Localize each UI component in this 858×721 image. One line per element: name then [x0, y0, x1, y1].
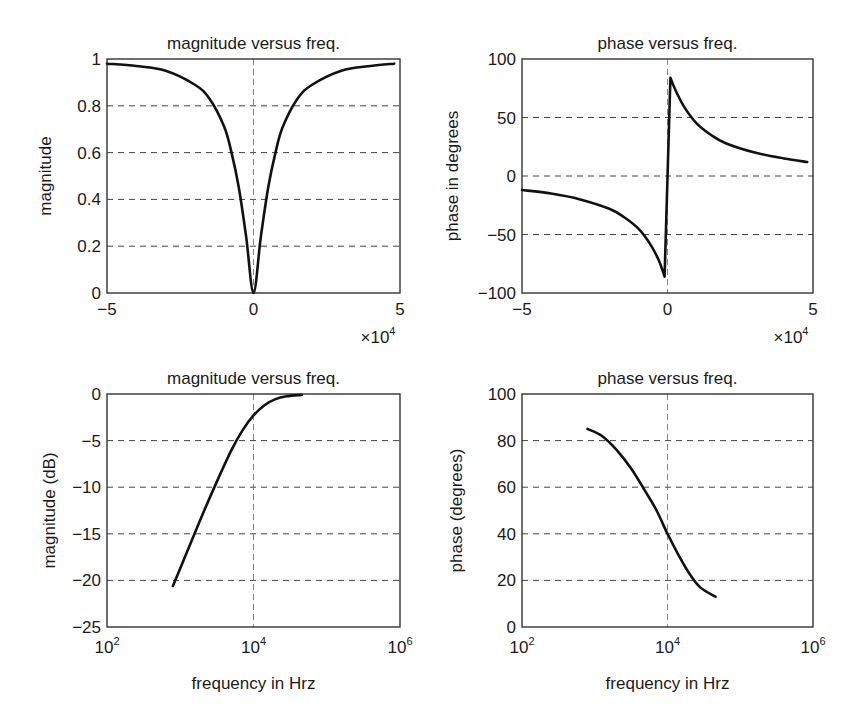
y-tick-label: −50 — [487, 226, 516, 245]
x-axis-label: frequency in Hrz — [192, 674, 316, 693]
y-tick-label: 40 — [497, 525, 516, 544]
y-tick-label: −5 — [82, 432, 101, 451]
y-tick-label: 100 — [488, 50, 516, 69]
series-line-phase_deg — [587, 429, 715, 597]
x-multiplier-label: ×104 — [774, 325, 809, 347]
y-axis-label: phase in degrees — [443, 111, 462, 241]
x-multiplier-label: ×104 — [361, 325, 396, 347]
y-tick-label: 0.2 — [77, 237, 101, 256]
x-tick-label: 104 — [655, 635, 680, 657]
subplot-title: magnitude versus freq. — [167, 369, 340, 388]
x-tick-label: −5 — [97, 300, 116, 319]
y-axis-label: magnitude (dB) — [40, 452, 59, 568]
subplot-title: phase versus freq. — [598, 369, 738, 388]
subplot-top-left: magnitude versus freq.00.20.40.60.81−505… — [36, 34, 405, 347]
y-axis-label: phase (degrees) — [447, 449, 466, 573]
y-tick-label: 1 — [92, 50, 101, 69]
y-tick-label: 0.6 — [77, 144, 101, 163]
x-tick-label: 102 — [94, 635, 119, 657]
y-tick-label: 50 — [497, 109, 516, 128]
y-tick-label: 60 — [497, 478, 516, 497]
y-tick-label: −100 — [478, 284, 516, 303]
x-axis-label: frequency in Hrz — [606, 674, 730, 693]
y-tick-label: 0.4 — [77, 190, 101, 209]
x-tick-label: 5 — [808, 300, 817, 319]
series-line-magnitude_dB — [173, 395, 302, 586]
subplot-bottom-left: magnitude versus freq.−25−20−15−10−50102… — [40, 369, 413, 693]
series-line-magnitude — [107, 64, 394, 293]
y-tick-label: −15 — [72, 525, 101, 544]
subplot-bottom-right: phase versus freq.020406080100102104106f… — [447, 369, 826, 693]
subplot-title: phase versus freq. — [598, 34, 738, 53]
x-tick-label: 102 — [509, 635, 534, 657]
subplot-top-right: phase versus freq.−100−50050100−505×104p… — [443, 34, 818, 347]
y-tick-label: 0 — [92, 385, 101, 404]
y-tick-label: 100 — [488, 385, 516, 404]
y-tick-label: 20 — [497, 571, 516, 590]
y-tick-label: 80 — [497, 432, 516, 451]
y-tick-label: 0.8 — [77, 97, 101, 116]
x-tick-label: 0 — [663, 300, 672, 319]
x-tick-label: 106 — [387, 635, 412, 657]
series-line-phase — [522, 78, 807, 277]
subplot-title: magnitude versus freq. — [167, 34, 340, 53]
x-tick-label: 0 — [249, 300, 258, 319]
y-axis-label: magnitude — [36, 136, 55, 215]
y-tick-label: −20 — [72, 571, 101, 590]
y-tick-label: −25 — [72, 618, 101, 637]
y-tick-label: 0 — [507, 618, 516, 637]
x-tick-label: 104 — [241, 635, 266, 657]
x-tick-label: −5 — [512, 300, 531, 319]
x-tick-label: 106 — [800, 635, 825, 657]
figure-canvas: magnitude versus freq.00.20.40.60.81−505… — [0, 0, 858, 721]
x-tick-label: 5 — [395, 300, 404, 319]
y-tick-label: −10 — [72, 478, 101, 497]
y-tick-label: 0 — [507, 167, 516, 186]
